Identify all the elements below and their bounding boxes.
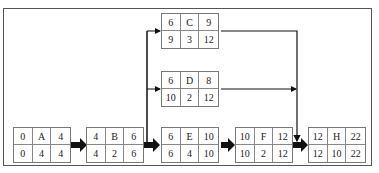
critical-arrow-e-f — [221, 138, 235, 152]
activity-label: F — [255, 128, 274, 145]
early-start: 4 — [87, 128, 106, 145]
late-start: 12 — [309, 145, 328, 162]
late-start: 0 — [14, 145, 33, 162]
node-c: 6 C 9 9 3 12 — [161, 13, 219, 49]
late-finish: 22 — [346, 145, 365, 162]
duration: 4 — [33, 145, 52, 162]
early-finish: 6 — [124, 128, 143, 145]
activity-label: H — [328, 128, 347, 145]
late-finish: 6 — [124, 145, 143, 162]
critical-arrow-a-b — [70, 138, 87, 152]
duration: 4 — [181, 145, 200, 162]
early-start: 12 — [309, 128, 328, 145]
late-finish: 4 — [51, 145, 70, 162]
early-finish: 8 — [199, 72, 218, 89]
critical-arrow-f-h — [292, 138, 308, 152]
activity-label: B — [106, 128, 125, 145]
early-start: 6 — [162, 72, 181, 89]
node-b: 4 B 6 4 2 6 — [86, 127, 144, 163]
duration: 10 — [328, 145, 347, 162]
activity-label: C — [181, 14, 200, 31]
late-finish: 12 — [199, 31, 218, 48]
duration: 2 — [106, 145, 125, 162]
duration: 3 — [181, 31, 200, 48]
activity-label: A — [33, 128, 52, 145]
early-finish: 10 — [199, 128, 218, 145]
node-h: 12 H 22 12 10 22 — [308, 127, 366, 163]
activity-label: E — [181, 128, 200, 145]
early-finish: 22 — [346, 128, 365, 145]
late-finish: 12 — [199, 89, 218, 106]
late-start: 6 — [162, 145, 181, 162]
late-start: 10 — [236, 145, 255, 162]
early-finish: 12 — [273, 128, 292, 145]
node-a: 0 A 4 0 4 4 — [13, 127, 71, 163]
node-e: 6 E 10 6 4 10 — [161, 127, 219, 163]
late-finish: 10 — [199, 145, 218, 162]
late-start: 9 — [162, 31, 181, 48]
activity-label: D — [181, 72, 200, 89]
early-start: 10 — [236, 128, 255, 145]
early-finish: 4 — [51, 128, 70, 145]
critical-arrow-b-e — [142, 138, 160, 152]
node-f: 10 F 12 10 2 12 — [235, 127, 293, 163]
duration: 2 — [255, 145, 274, 162]
early-start: 6 — [162, 128, 181, 145]
duration: 2 — [181, 89, 200, 106]
early-start: 0 — [14, 128, 33, 145]
late-start: 4 — [87, 145, 106, 162]
early-start: 6 — [162, 14, 181, 31]
node-d: 6 D 8 10 2 12 — [161, 71, 219, 107]
early-finish: 9 — [199, 14, 218, 31]
arrow-c-h — [221, 31, 297, 141]
late-start: 10 — [162, 89, 181, 106]
late-finish: 12 — [273, 145, 292, 162]
